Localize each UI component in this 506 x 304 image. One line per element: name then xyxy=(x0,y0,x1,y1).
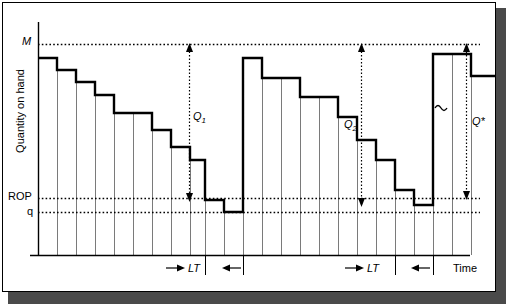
order-quantity-label-q1: Q1 xyxy=(193,110,206,125)
order-quantity-label-qstar: Q* xyxy=(472,115,485,127)
q2-base: Q xyxy=(344,118,353,130)
lead-time-label-2: LT xyxy=(367,262,379,274)
order-quantity-label-q2: Q2 xyxy=(344,118,357,133)
order-quantity-arrow-qstar xyxy=(463,43,470,200)
reference-lines xyxy=(38,45,480,213)
gridlines-vertical xyxy=(39,54,472,255)
q1-subscript: 1 xyxy=(202,116,206,125)
x-axis-title: Time xyxy=(453,262,477,274)
order-quantity-arrow-q2 xyxy=(358,43,365,207)
figure-root: M ROP q Q1 Q2 Q* LT LT Time Quantity on … xyxy=(0,0,506,304)
q2-subscript: 2 xyxy=(353,124,357,133)
chart-canvas xyxy=(0,0,506,304)
q1-base: Q xyxy=(193,110,202,122)
order-quantity-arrow-q1 xyxy=(186,43,193,202)
inventory-level-trace xyxy=(38,54,495,212)
inventory-sawtooth-svg xyxy=(0,0,506,304)
lead-time-bracket-2 xyxy=(345,255,434,275)
y-axis-title: Quantity on hand xyxy=(14,61,26,161)
reorder-point-label: ROP xyxy=(8,190,32,202)
lead-time-label-1: LT xyxy=(188,262,200,274)
squiggle-mark xyxy=(435,106,447,111)
lead-time-bracket-1 xyxy=(166,255,244,275)
max-level-label: M xyxy=(22,35,31,47)
safety-stock-label: q xyxy=(27,205,33,217)
